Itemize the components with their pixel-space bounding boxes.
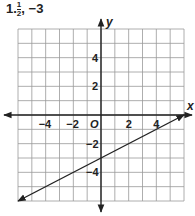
coordinate-plane: xyO−4−22442−2−4 (0, 0, 195, 216)
x-axis-label: x (186, 99, 195, 113)
y-axis-label: y (105, 15, 114, 29)
x-tick-label: 2 (126, 118, 132, 130)
y-tick-label: −4 (86, 166, 99, 178)
y-tick-label: 4 (92, 52, 99, 64)
x-tick-label: −4 (39, 118, 52, 130)
y-tick-label: −2 (86, 138, 99, 150)
x-tick-label: −2 (66, 118, 79, 130)
origin-label: O (90, 118, 99, 130)
y-tick-label: 2 (92, 80, 98, 92)
